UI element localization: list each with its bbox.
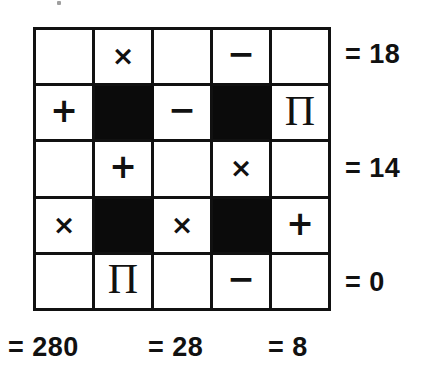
plus-icon: + bbox=[50, 94, 78, 127]
grid-cell-r5c5[interactable] bbox=[272, 255, 331, 311]
minus-icon: − bbox=[227, 37, 255, 70]
grid-cell-r1c4[interactable]: − bbox=[213, 30, 272, 86]
grid-cell-r2c5[interactable]: Π bbox=[272, 86, 331, 142]
plus-icon: + bbox=[109, 150, 137, 183]
plus-icon: + bbox=[286, 207, 314, 240]
grid-cell-r2c2-blocked bbox=[95, 86, 154, 142]
grid-cell-r5c3[interactable] bbox=[154, 255, 213, 311]
grid-cell-r4c3[interactable]: × bbox=[154, 199, 213, 255]
operator-grid: × − + − Π + × × × + Π − bbox=[33, 27, 331, 311]
grid-cell-r1c3[interactable] bbox=[154, 30, 213, 86]
grid-cell-r2c1[interactable]: + bbox=[36, 86, 95, 142]
multiply-icon: × bbox=[171, 211, 194, 238]
grid-cell-r4c5[interactable]: + bbox=[272, 199, 331, 255]
grid-cell-r2c3[interactable]: − bbox=[154, 86, 213, 142]
grid-cell-r4c4-blocked bbox=[213, 199, 272, 255]
row-result-1: = 18 bbox=[345, 41, 400, 68]
grid-cell-r3c4[interactable]: × bbox=[213, 142, 272, 198]
grid-cell-r1c1[interactable] bbox=[36, 30, 95, 86]
grid-cell-r4c1[interactable]: × bbox=[36, 199, 95, 255]
grid-cell-r2c4-blocked bbox=[213, 86, 272, 142]
grid-cell-r1c2[interactable]: × bbox=[95, 30, 154, 86]
multiply-icon: × bbox=[112, 42, 135, 69]
product-icon: Π bbox=[108, 258, 138, 300]
puzzle-figure: × − + − Π + × × × + Π − = 18 = 14 = 0 = … bbox=[0, 0, 426, 376]
grid-cell-r3c3[interactable] bbox=[154, 142, 213, 198]
grid-cell-r3c1[interactable] bbox=[36, 142, 95, 198]
multiply-icon: × bbox=[53, 211, 76, 238]
grid-cell-r1c5[interactable] bbox=[272, 30, 331, 86]
minus-icon: − bbox=[227, 262, 255, 295]
column-result-2: = 28 bbox=[148, 334, 203, 361]
grid-cell-r5c1[interactable] bbox=[36, 255, 95, 311]
minus-icon: − bbox=[168, 93, 196, 126]
row-result-2: = 14 bbox=[345, 155, 400, 182]
row-result-3: = 0 bbox=[345, 269, 385, 296]
grid-cell-r5c4[interactable]: − bbox=[213, 255, 272, 311]
column-result-1: = 280 bbox=[8, 334, 79, 361]
multiply-icon: × bbox=[230, 154, 253, 181]
column-result-3: = 8 bbox=[268, 334, 308, 361]
grid-cell-r5c2[interactable]: Π bbox=[95, 255, 154, 311]
grid-cell-r3c5[interactable] bbox=[272, 142, 331, 198]
grid-cell-r4c2-blocked bbox=[95, 199, 154, 255]
product-icon: Π bbox=[285, 90, 315, 132]
grid-cell-r3c2[interactable]: + bbox=[95, 142, 154, 198]
scan-artifact-speck bbox=[57, 1, 61, 5]
